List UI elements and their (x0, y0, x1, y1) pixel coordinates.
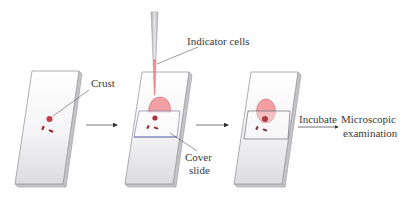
incubate-label: Incubate (299, 113, 337, 125)
cover-slide-label-line2: slide (189, 164, 210, 176)
cover-slide (244, 111, 290, 139)
diagram-canvas: Crust Indicator cells Cover slide (0, 0, 413, 199)
crust-particle (47, 116, 53, 122)
crust-particle (152, 115, 157, 120)
pipette-tip (151, 12, 158, 60)
crust-label: Crust (91, 77, 115, 89)
indicator-cells-leader-line (157, 47, 198, 64)
cover-slide-label-line1: Cover (185, 151, 212, 163)
indicator-cells-label: Indicator cells (187, 35, 250, 47)
slide-1: Crust (15, 71, 115, 187)
slide-3 (234, 72, 301, 187)
cover-slide (134, 111, 180, 137)
result-label-line1: Microscopic (341, 113, 396, 125)
result-label-line2: examination (343, 127, 398, 139)
crust-particle (262, 116, 268, 122)
slide-2: Indicator cells Cover slide (125, 12, 250, 187)
